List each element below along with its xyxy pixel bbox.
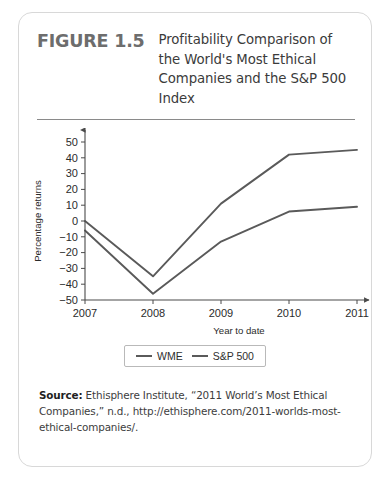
y-axis-title: Percentage returns [32, 180, 43, 262]
legend-line-swatch-icon [192, 355, 208, 357]
legend-label: S&P 500 [213, 350, 254, 362]
source-label: Source: [39, 389, 82, 401]
series-line-wme [85, 150, 357, 276]
y-axis-tick-label: 30 [66, 167, 78, 179]
x-axis-tick-label: 2010 [277, 307, 301, 319]
chart-area: 50403020100−10−20−30−40−50 2007200820092… [19, 128, 371, 343]
source-note: Source: Ethisphere Institute, “2011 Worl… [39, 387, 351, 436]
y-axis-tick-label: −30 [59, 262, 78, 274]
legend-item-sp500: S&P 500 [192, 350, 254, 362]
x-axis-ticks-group: 20072008200920102011 [73, 300, 369, 319]
x-axis-tick-label: 2011 [345, 307, 369, 319]
legend-box: WME S&P 500 [124, 345, 266, 367]
y-axis-tick-label: −40 [59, 278, 78, 290]
y-axis-tick-label: 50 [66, 136, 78, 148]
figure-header: FIGURE 1.5 Profitability Comparison of t… [19, 13, 371, 108]
line-chart: 50403020100−10−20−30−40−50 2007200820092… [19, 128, 371, 343]
y-axis-tick-label: 10 [66, 199, 78, 211]
source-text: Ethisphere Institute, “2011 World’s Most… [39, 389, 341, 433]
plot-lines-group [85, 150, 357, 294]
y-axis-ticks-group: 50403020100−10−20−30−40−50 [59, 136, 85, 306]
x-axis-tick-label: 2007 [73, 307, 97, 319]
legend-item-wme: WME [136, 350, 183, 362]
figure-number-label: FIGURE 1.5 [37, 30, 145, 51]
y-axis-tick-label: −50 [59, 294, 78, 306]
legend-line-swatch-icon [136, 355, 152, 357]
header-divider [37, 119, 355, 120]
figure-card: FIGURE 1.5 Profitability Comparison of t… [18, 12, 372, 467]
x-axis-title: Year to date [213, 325, 264, 336]
x-axis-tick-label: 2008 [141, 307, 165, 319]
y-axis-tick-label: −10 [59, 231, 78, 243]
y-axis-tick-label: 20 [66, 183, 78, 195]
y-axis-tick-label: 0 [72, 215, 78, 227]
legend-label: WME [157, 350, 183, 362]
y-axis-tick-label: 40 [66, 152, 78, 164]
x-axis-tick-label: 2009 [209, 307, 233, 319]
series-line-s-p-500 [85, 207, 357, 294]
y-axis-tick-label: −20 [59, 246, 78, 258]
figure-title: Profitability Comparison of the World's … [159, 30, 355, 108]
chart-legend: WME S&P 500 [19, 345, 371, 367]
